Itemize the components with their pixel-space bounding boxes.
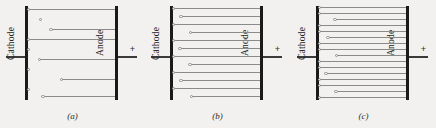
ion-marker-icon: [38, 58, 42, 62]
ion-trajectory-line: [173, 56, 260, 57]
panel-a: – + Cathode Anode (a): [0, 0, 145, 128]
ion-marker-icon: [27, 48, 31, 52]
ion-marker-icon: [27, 88, 31, 92]
ion-marker-icon: [190, 95, 194, 99]
cathode-label: Cathode: [151, 27, 161, 60]
ion-trajectory-line: [319, 79, 406, 80]
ion-marker-icon: [324, 72, 328, 76]
cathode-label: Cathode: [6, 27, 16, 60]
ion-marker-icon: [318, 42, 322, 46]
cathode-label: Cathode: [297, 27, 307, 60]
ion-marker-icon: [318, 66, 322, 70]
ion-trajectory-line: [336, 91, 406, 92]
ion-trajectory-line: [28, 39, 115, 40]
ion-trajectory-line: [326, 73, 406, 74]
ion-marker-icon: [318, 78, 322, 82]
ion-marker-icon: [172, 23, 176, 27]
ion-trajectory-line: [173, 88, 260, 89]
ion-trajectory-line: [181, 16, 260, 17]
ion-marker-icon: [178, 47, 182, 51]
ion-marker-icon: [318, 60, 322, 64]
anode-polarity-sign: +: [275, 45, 280, 54]
electrochemical-cell-figure: – + Cathode Anode (a) – + Cathode Anode …: [0, 0, 436, 128]
ion-marker-icon: [172, 87, 176, 91]
panel-caption-c: (c): [291, 111, 436, 121]
ion-trajectory-line: [190, 32, 260, 33]
ion-trajectory-line: [319, 7, 406, 8]
anode-lead-wire: [407, 56, 428, 58]
ion-marker-icon: [41, 95, 45, 99]
ion-trajectory-line: [319, 67, 406, 68]
ion-marker-icon: [179, 79, 183, 83]
ion-trajectory-line: [191, 96, 260, 97]
ion-marker-icon: [334, 90, 338, 94]
ion-trajectory-line: [319, 85, 406, 86]
ion-trajectory-line: [181, 80, 260, 81]
ion-marker-icon: [318, 24, 322, 28]
ion-trajectory-line: [190, 64, 260, 65]
trajectory-field-c: [319, 6, 406, 100]
panel-c: – + Cathode Anode (c): [291, 0, 436, 128]
ion-marker-icon: [318, 6, 322, 10]
panel-b: – + Cathode Anode (b): [145, 0, 290, 128]
ion-trajectory-line: [319, 97, 406, 98]
ion-trajectory-line: [319, 25, 406, 26]
ion-trajectory-line: [180, 48, 260, 49]
panel-caption-a: (a): [0, 111, 145, 121]
ion-trajectory-line: [328, 37, 406, 38]
ion-trajectory-line: [43, 96, 115, 97]
anode-polarity-sign: +: [130, 45, 135, 54]
trajectory-field-b: [173, 6, 260, 100]
ion-trajectory-line: [335, 19, 406, 20]
anode-lead-wire: [261, 56, 282, 58]
trajectory-field-a: [28, 6, 115, 100]
anode-electrode: [115, 6, 118, 100]
ion-marker-icon: [333, 18, 337, 22]
anode-lead-wire: [116, 56, 137, 58]
ion-trajectory-line: [173, 72, 260, 73]
ion-marker-icon: [318, 12, 322, 16]
ion-marker-icon: [27, 38, 31, 42]
ion-trajectory-line: [51, 29, 115, 30]
ion-trajectory-line: [319, 49, 406, 50]
anode-electrode: [260, 6, 263, 100]
ion-trajectory-line: [173, 8, 260, 9]
ion-marker-icon: [179, 15, 183, 19]
ion-trajectory-line: [61, 79, 115, 80]
ion-marker-icon: [60, 78, 64, 82]
ion-marker-icon: [188, 63, 192, 67]
ion-trajectory-line: [28, 9, 115, 10]
ion-marker-icon: [172, 71, 176, 75]
ion-trajectory-line: [319, 31, 406, 32]
ion-trajectory-line: [173, 24, 260, 25]
ion-trajectory-line: [319, 43, 406, 44]
ion-trajectory-line: [319, 13, 406, 14]
ion-marker-icon: [318, 30, 322, 34]
ion-marker-icon: [318, 84, 322, 88]
ion-marker-icon: [189, 31, 193, 35]
anode-polarity-sign: +: [421, 45, 426, 54]
anode-electrode: [406, 6, 409, 100]
ion-marker-icon: [27, 8, 31, 12]
ion-marker-icon: [49, 28, 53, 32]
ion-marker-icon: [326, 36, 330, 40]
ion-marker-icon: [172, 39, 176, 43]
ion-marker-icon: [318, 96, 322, 100]
ion-marker-icon: [335, 54, 339, 58]
ion-trajectory-line: [336, 55, 406, 56]
ion-marker-icon: [39, 18, 43, 22]
ion-marker-icon: [172, 7, 176, 11]
panel-caption-b: (b): [145, 111, 290, 121]
ion-trajectory-line: [173, 40, 260, 41]
ion-trajectory-line: [39, 59, 115, 60]
ion-marker-icon: [172, 55, 176, 59]
ion-trajectory-line: [319, 61, 406, 62]
ion-marker-icon: [27, 68, 31, 72]
ion-marker-icon: [318, 48, 322, 52]
